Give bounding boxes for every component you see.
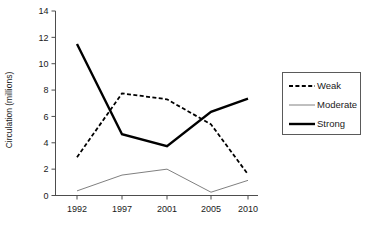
y-tick-label: 10 bbox=[38, 59, 48, 69]
x-tick-label: 2005 bbox=[201, 204, 221, 214]
y-tick-label: 12 bbox=[38, 33, 48, 43]
legend-label-strong: Strong bbox=[317, 118, 345, 129]
x-tick-label: 2001 bbox=[157, 204, 177, 214]
y-tick-label: 14 bbox=[38, 6, 48, 16]
x-tick-label: 1997 bbox=[112, 204, 132, 214]
chart-legend: WeakModerateStrong bbox=[283, 73, 361, 135]
series-lines bbox=[77, 44, 248, 192]
chart-figure: Circulation (millions) 02468101214 19921… bbox=[0, 0, 372, 232]
series-line-weak bbox=[77, 93, 248, 174]
legend-label-weak: Weak bbox=[317, 80, 341, 91]
series-line-strong bbox=[77, 44, 248, 146]
series-line-moderate bbox=[77, 169, 248, 192]
y-tick-label: 0 bbox=[43, 191, 48, 201]
y-axis-title: Circulation (millions) bbox=[4, 72, 14, 149]
y-axis-ticks: 02468101214 bbox=[38, 6, 55, 201]
line-chart: Circulation (millions) 02468101214 19921… bbox=[0, 0, 372, 232]
y-tick-label: 8 bbox=[43, 85, 48, 95]
y-tick-label: 2 bbox=[43, 164, 48, 174]
x-tick-label: 1992 bbox=[67, 204, 87, 214]
x-tick-label: 2010 bbox=[238, 204, 258, 214]
x-axis-ticks: 19921997200120052010 bbox=[67, 196, 258, 214]
y-tick-label: 6 bbox=[43, 112, 48, 122]
legend-label-moderate: Moderate bbox=[317, 99, 357, 110]
y-tick-label: 4 bbox=[43, 138, 48, 148]
